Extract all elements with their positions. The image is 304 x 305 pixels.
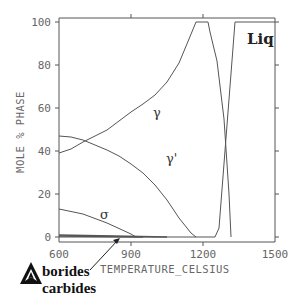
sigma-label: σ	[100, 207, 109, 222]
x-tick-900: 900	[121, 248, 141, 261]
curves	[59, 22, 275, 237]
x-axis-ticks	[131, 14, 203, 246]
liq-label: Liq	[247, 30, 274, 48]
x-tick-1200: 1200	[190, 248, 217, 261]
phase-fraction-chart: 0 20 40 60 80 100 600 900 1200 1500 TEMP…	[0, 0, 304, 305]
x-tick-1500: 1500	[262, 248, 289, 261]
gamma-prime-label: γ'	[166, 151, 177, 166]
y-axis-title: MOLE % PHASE	[14, 91, 26, 173]
liquid-curve	[59, 22, 275, 237]
y-tick-40: 40	[38, 145, 51, 158]
carbides-label: carbides	[42, 280, 96, 296]
plot-frame	[59, 18, 275, 242]
thermo-calc-logo-icon	[20, 262, 42, 284]
y-tick-100: 100	[31, 16, 51, 29]
x-tick-labels: 600 900 1200 1500	[49, 248, 288, 261]
y-axis-ticks	[55, 22, 279, 237]
y-tick-60: 60	[38, 102, 51, 115]
y-tick-labels: 0 20 40 60 80 100	[31, 16, 51, 244]
y-tick-80: 80	[38, 59, 51, 72]
x-tick-600: 600	[49, 248, 69, 261]
gamma-label: γ	[153, 105, 161, 120]
carbides-curve	[59, 236, 143, 237]
gamma-curve	[59, 22, 231, 237]
sigma-curve	[59, 209, 136, 237]
x-axis-title: TEMPERATURE_CELSIUS	[100, 263, 230, 276]
borides-label: borides	[42, 263, 90, 279]
y-tick-0: 0	[44, 231, 51, 244]
y-tick-20: 20	[38, 188, 51, 201]
